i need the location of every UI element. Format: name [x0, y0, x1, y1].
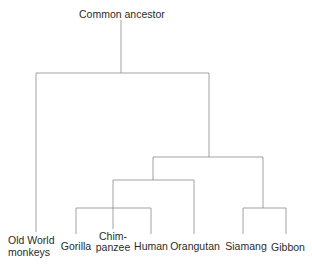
- leaf-gorilla: Gorilla: [61, 240, 91, 252]
- leaf-gibbon: Gibbon: [271, 241, 305, 253]
- tree-lines: [0, 0, 312, 264]
- leaf-siamang: Siamang: [225, 240, 266, 252]
- root-label: Common ancestor: [79, 8, 165, 20]
- leaf-chimpanzee-line2: panzee: [96, 241, 130, 253]
- leaf-old-world-monkeys-line2: monkeys: [8, 246, 50, 258]
- leaf-orangutan: Orangutan: [170, 240, 220, 252]
- leaf-human: Human: [134, 240, 168, 252]
- leaf-old-world-monkeys-line1: Old World: [8, 234, 55, 246]
